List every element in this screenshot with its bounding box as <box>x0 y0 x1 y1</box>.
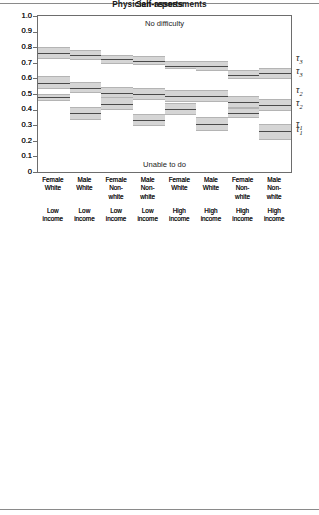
estimate-line <box>38 53 70 54</box>
estimate-line <box>165 109 197 110</box>
estimate-line <box>70 55 102 56</box>
x-axis-category-label: FemaleWhite Lowincome <box>37 176 69 224</box>
estimate-line <box>196 66 228 67</box>
y-axis-tick-label: 0.3 <box>21 120 32 129</box>
category-income-word: income <box>258 215 290 223</box>
y-axis-tick-label: 0.7 <box>21 58 32 67</box>
category-race-spacer <box>195 193 227 201</box>
category-race: White <box>69 184 101 192</box>
category-sex: Female <box>100 176 132 184</box>
category-race-cont: white <box>132 193 164 201</box>
category-income-level: High <box>195 207 227 215</box>
category-sex: Female <box>164 176 196 184</box>
estimate-line <box>133 94 165 95</box>
category-income-word: income <box>164 215 196 223</box>
category-income-word: income <box>37 215 69 223</box>
x-axis-category-label: MaleNon-whiteLowincome <box>132 176 164 224</box>
category-demographics: FemaleWhite <box>37 176 69 201</box>
estimate-line <box>133 61 165 62</box>
estimate-line <box>228 113 260 114</box>
x-axis-category-label: FemaleWhite Highincome <box>164 176 196 224</box>
page-bottom-rule <box>0 509 319 510</box>
category-income-word: income <box>100 215 132 223</box>
category-race: White <box>37 184 69 192</box>
category-income-level: High <box>258 207 290 215</box>
category-income-level: Low <box>69 207 101 215</box>
estimate-line <box>38 97 70 98</box>
category-income-level: High <box>164 207 196 215</box>
y-axis-tick-label: 0.8 <box>21 42 32 51</box>
y-axis-tick-label: 0.6 <box>21 73 32 82</box>
y-axis-tick-label: 0.1 <box>21 151 32 160</box>
y-axis: 1.00.90.80.70.60.50.40.30.20.10 <box>0 15 37 174</box>
category-demographics: MaleNon-white <box>258 176 290 201</box>
category-demographics: FemaleWhite <box>164 176 196 201</box>
category-sex: Female <box>227 176 259 184</box>
category-income: Lowincome <box>100 207 132 224</box>
category-sex: Male <box>258 176 290 184</box>
category-race-cont: white <box>227 193 259 201</box>
category-race: Non- <box>258 184 290 192</box>
x-axis-labels: FemaleWhite LowincomeMaleWhite Lowincome… <box>37 176 292 246</box>
category-sex: Female <box>37 176 69 184</box>
estimate-line <box>101 104 133 105</box>
category-race: White <box>164 184 196 192</box>
category-income: Highincome <box>258 207 290 224</box>
estimate-line <box>228 75 260 76</box>
estimate-line <box>101 59 133 60</box>
category-income-level: Low <box>37 207 69 215</box>
category-race: Non- <box>132 184 164 192</box>
estimate-line <box>259 131 291 132</box>
estimate-line <box>259 105 291 106</box>
category-sex: Male <box>195 176 227 184</box>
category-race: White <box>195 184 227 192</box>
category-income: Lowincome <box>132 207 164 224</box>
category-income-word: income <box>69 215 101 223</box>
category-income-word: income <box>195 215 227 223</box>
estimate-line <box>196 96 228 97</box>
category-income: Lowincome <box>69 207 101 224</box>
category-race: Non- <box>227 184 259 192</box>
y-axis-tick-label: 0.2 <box>21 136 32 145</box>
category-income: Lowincome <box>37 207 69 224</box>
category-income-level: Low <box>100 207 132 215</box>
x-axis-category-label: MaleWhite Highincome <box>195 176 227 224</box>
top-annotation: No difficulty <box>38 19 291 28</box>
category-income: Highincome <box>195 207 227 224</box>
category-race-cont: white <box>258 193 290 201</box>
plot-area: No difficulty Unable to do <box>37 15 292 173</box>
estimate-line <box>228 102 260 103</box>
y-axis-tick-label: 0 <box>28 167 32 176</box>
category-sex: Male <box>132 176 164 184</box>
estimate-line <box>259 73 291 74</box>
category-demographics: FemaleNon-white <box>100 176 132 201</box>
threshold-label-tau-1: τ1 <box>296 124 303 136</box>
category-race-spacer <box>37 193 69 201</box>
category-income-level: Low <box>132 207 164 215</box>
category-income: Highincome <box>227 207 259 224</box>
threshold-label-tau-3: τ3 <box>296 53 303 65</box>
estimate-line <box>101 93 133 94</box>
estimate-line <box>165 66 197 67</box>
category-sex: Male <box>69 176 101 184</box>
category-race-spacer <box>164 193 196 201</box>
category-race-cont: white <box>100 193 132 201</box>
estimate-line <box>133 120 165 121</box>
estimate-line <box>70 88 102 89</box>
category-income: Highincome <box>164 207 196 224</box>
x-axis-category-label: FemaleNon-whiteLowincome <box>100 176 132 224</box>
category-income-word: income <box>132 215 164 223</box>
category-demographics: MaleWhite <box>69 176 101 201</box>
x-axis-category-label: MaleWhite Lowincome <box>69 176 101 224</box>
threshold-label-tau-3: τ3 <box>296 66 303 78</box>
y-axis-tick-label: 0.9 <box>21 26 32 35</box>
y-axis-tick-label: 1.0 <box>21 11 32 20</box>
y-axis-tick-label: 0.5 <box>21 89 32 98</box>
x-axis-category-label: MaleNon-whiteHighincome <box>258 176 290 224</box>
estimate-line <box>165 96 197 97</box>
category-income-level: High <box>227 207 259 215</box>
estimate-line <box>70 113 102 114</box>
category-demographics: FemaleNon-white <box>227 176 259 201</box>
panel-title: Self-reports <box>0 0 319 9</box>
category-demographics: MaleNon-white <box>132 176 164 201</box>
